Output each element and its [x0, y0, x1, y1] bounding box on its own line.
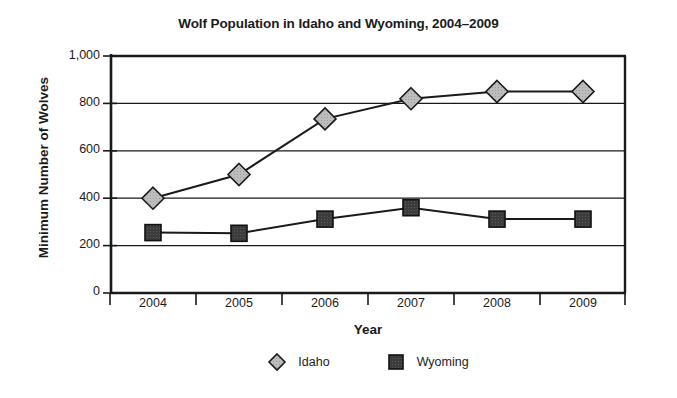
- data-point-wyoming-2005: [231, 225, 247, 241]
- data-point-wyoming-2004: [145, 225, 161, 241]
- series-markers-idaho: [142, 81, 594, 210]
- gridlines: [110, 103, 626, 245]
- chart-legend: Idaho Wyoming: [110, 352, 626, 372]
- data-point-idaho-2006: [314, 108, 336, 130]
- x-tick-marks: [110, 293, 625, 305]
- series-markers-wyoming: [145, 200, 591, 242]
- chart-figure: Wolf Population in Idaho and Wyoming, 20…: [0, 0, 677, 398]
- plot-frame: [110, 54, 626, 294]
- legend-label-idaho: Idaho: [298, 355, 329, 369]
- legend-entry-wyoming: Wyoming: [386, 352, 469, 372]
- series-line-wyoming: [153, 208, 583, 234]
- data-point-wyoming-2006: [317, 211, 333, 227]
- plot-area: [0, 0, 677, 398]
- data-point-idaho-2007: [400, 88, 422, 110]
- data-point-idaho-2005: [228, 164, 250, 186]
- data-point-idaho-2008: [486, 81, 508, 103]
- legend-label-wyoming: Wyoming: [417, 355, 469, 369]
- data-point-wyoming-2009: [575, 211, 591, 227]
- data-point-wyoming-2008: [489, 211, 505, 227]
- data-point-idaho-2009: [572, 81, 594, 103]
- data-point-idaho-2004: [142, 187, 164, 209]
- legend-entry-idaho: Idaho: [267, 352, 329, 372]
- square-marker-icon: [386, 352, 406, 372]
- data-point-wyoming-2007: [403, 200, 419, 216]
- series-line-idaho: [153, 92, 583, 199]
- diamond-marker-icon: [267, 352, 287, 372]
